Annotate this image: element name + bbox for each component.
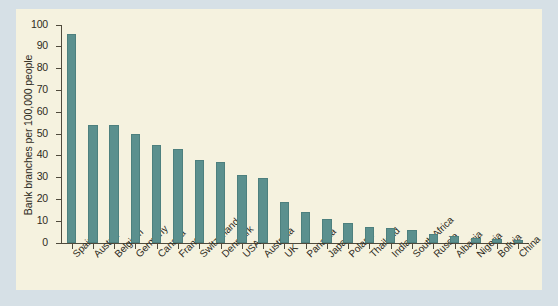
bar[interactable] [492,239,502,243]
y-axis-tick-label: 90 [37,39,48,51]
y-axis-tick: 70 [56,90,61,91]
y-axis-title: Bank branches per 100,000 people [21,25,35,244]
bar[interactable] [88,125,98,243]
chart-figure: Bank branches per 100,000 people 0102030… [16,9,542,290]
y-axis-tick-label: 60 [37,105,48,117]
bar[interactable] [429,234,439,243]
bar[interactable] [450,236,460,243]
y-axis-tick: 80 [56,68,61,69]
bar[interactable] [301,212,311,243]
y-axis-tick: 0 [56,243,61,244]
y-axis-tick-label: 70 [37,83,48,95]
y-axis-tick: 50 [56,134,61,135]
bar[interactable] [322,219,332,243]
y-axis-tick: 30 [56,177,61,178]
y-axis-tick-label: 10 [37,214,48,226]
y-axis-tick-label: 20 [37,192,48,204]
bar[interactable] [109,125,119,243]
x-axis-category-label: UK [283,242,300,259]
bar[interactable] [343,223,353,243]
bar[interactable] [152,145,162,243]
y-axis-tick-label: 80 [37,61,48,73]
y-axis-tick: 20 [56,199,61,200]
bar[interactable] [280,202,290,243]
y-axis-tick-label: 100 [31,18,48,30]
y-axis-tick: 60 [56,112,61,113]
y-axis-tick-label: 0 [42,236,48,248]
bar[interactable] [407,230,417,243]
bar[interactable] [386,228,396,243]
bar[interactable] [173,149,183,243]
bar[interactable] [237,175,247,243]
bar[interactable] [131,134,141,243]
plot-area: 0102030405060708090100 SpainAustriaBelgi… [61,25,529,244]
y-axis-tick: 90 [56,46,61,47]
y-axis-tick-label: 40 [37,148,48,160]
y-axis-tick: 100 [56,25,61,26]
y-axis-tick: 40 [56,155,61,156]
bar[interactable] [471,238,481,243]
bar[interactable] [195,160,205,243]
y-axis-line [61,25,62,244]
bar[interactable] [514,240,524,243]
bar[interactable] [67,34,77,243]
bar[interactable] [258,178,268,243]
y-axis-tick: 10 [56,221,61,222]
bar[interactable] [365,227,375,243]
y-axis-tick-label: 50 [37,127,48,139]
y-axis-title-text: Bank branches per 100,000 people [22,54,34,214]
y-axis-tick-label: 30 [37,170,48,182]
bar[interactable] [216,162,226,243]
